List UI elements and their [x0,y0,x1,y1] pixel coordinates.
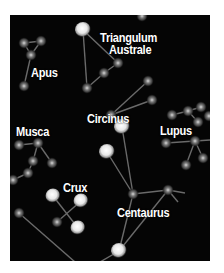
label-crux: Crux [63,182,87,194]
label-musca: Musca [16,126,49,138]
label-circinus: Circinus [87,113,129,125]
star-map: Triangulum Australe Apus Circinus Musca … [10,15,210,261]
label-triangulum-australe: Triangulum Australe [100,32,157,56]
label-apus: Apus [31,67,58,79]
label-centaurus: Centaurus [117,207,169,219]
label-lupus: Lupus [160,125,192,137]
label-triangulum-line2: Australe [100,44,157,56]
